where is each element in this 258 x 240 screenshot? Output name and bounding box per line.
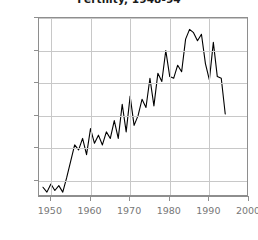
x-axis-tick-mark: [208, 196, 209, 201]
x-axis-line: [38, 196, 248, 197]
x-axis-tick-mark: [169, 196, 170, 201]
x-axis-tick-label: 1980: [157, 205, 181, 216]
x-axis-tick-mark: [129, 196, 130, 201]
y-axis-tick-mark: [34, 50, 38, 51]
x-axis-tick-label: 1950: [38, 205, 62, 216]
x-axis-tick-label: 1990: [196, 205, 220, 216]
axes-layer: 250270290310330350 195019601970198019902…: [0, 0, 258, 240]
y-axis-tick-mark: [34, 17, 38, 18]
y-axis-tick-mark: [34, 147, 38, 148]
x-axis-tick-mark: [90, 196, 91, 201]
chart-container: Fertility, 1948-94 250270290310330350 19…: [0, 0, 258, 240]
x-axis-tick-label: 1960: [77, 205, 101, 216]
x-axis-tick-mark: [50, 196, 51, 201]
y-axis-tick-mark: [34, 180, 38, 181]
x-axis-tick-mark: [248, 196, 249, 201]
x-axis-tick-label: 2000: [236, 205, 258, 216]
y-axis-tick-mark: [34, 115, 38, 116]
y-axis-tick-labels: 250270290310330350: [0, 0, 258, 240]
x-axis-tick-label: 1970: [117, 205, 141, 216]
y-axis-tick-mark: [34, 82, 38, 83]
